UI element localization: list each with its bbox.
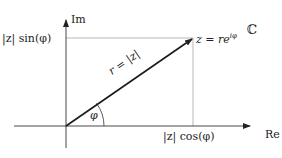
real-axis-label: Re [265,129,280,140]
point-z-label: z = reiφ [196,33,237,45]
angle-label: φ [90,110,98,121]
imaginary-axis-label: Im [71,14,86,25]
point-z-text: z = re [196,33,230,46]
x-projection-label: |z| cos(φ) [163,131,214,142]
complex-plane-diagram [0,0,282,158]
y-projection-label: |z| sin(φ) [2,33,51,44]
point-z-exponent: iφ [230,32,237,40]
complex-plane-symbol-right: ℂ [247,23,257,36]
